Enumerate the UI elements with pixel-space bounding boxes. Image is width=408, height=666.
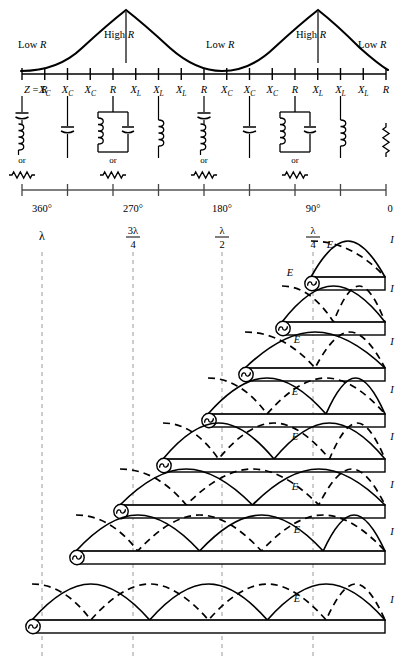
degree-label: 270° — [123, 203, 143, 214]
generator-icon — [26, 619, 40, 633]
wavelength-marker: λ4 — [306, 225, 320, 250]
inductor-icon — [341, 120, 346, 146]
resistor-icon — [282, 172, 308, 178]
or-label: or — [200, 155, 208, 165]
generator-icon — [276, 321, 290, 335]
impedance-tick-label: XL — [152, 84, 164, 98]
wavelength-markers: λ3λ4λ2λ4 — [39, 225, 320, 250]
impedance-label-high-r-2: High R — [296, 29, 327, 40]
inductor-icon — [159, 120, 164, 146]
impedance-label-low-r-right: Low R — [358, 39, 387, 50]
equivalent-circuit-parallel-LC-tank: or — [98, 96, 134, 178]
current-curve-label: I — [389, 336, 394, 347]
current-standing-wave-curve — [120, 469, 385, 505]
transmission-line-row: EI — [305, 234, 394, 291]
voltage-curve-label: E — [291, 481, 299, 492]
voltage-curve-label: E — [293, 524, 301, 535]
impedance-axis-tick-labels: Z = RXCXCXCRXLXLXLRXCXCXCRXLXLXLR — [24, 84, 390, 98]
degree-label: 360° — [32, 203, 52, 214]
capacitor-icon — [243, 127, 256, 133]
equivalent-circuit-capacitor — [243, 96, 256, 158]
voltage-standing-wave-curve — [120, 469, 385, 505]
equivalent-circuit-resistor-vertical — [383, 123, 389, 157]
or-label: or — [291, 155, 299, 165]
impedance-label-low-r-mid: Low R — [206, 39, 235, 50]
voltage-curve-label: E — [286, 267, 294, 278]
capacitor-icon — [16, 113, 29, 119]
transmission-line-row: EI — [70, 515, 394, 565]
equivalent-circuit-series-LC: or — [9, 96, 35, 178]
impedance-label-high-r-1: High R — [104, 29, 135, 40]
capacitor-icon — [61, 127, 74, 133]
impedance-tick-label: XC — [38, 84, 51, 98]
degree-label: 90° — [306, 203, 321, 214]
impedance-tick-label: XC — [84, 84, 97, 98]
resistor-icon — [383, 123, 389, 157]
equivalent-circuit-inductor — [341, 96, 346, 158]
resistor-icon — [191, 172, 217, 178]
capacitor-icon — [304, 127, 316, 133]
transmission-line-row: EI — [202, 378, 394, 428]
impedance-tick-label: R — [382, 84, 390, 95]
equivalent-circuit-parallel-LC-tank: or — [280, 96, 316, 178]
wavelength-numerator: λ — [219, 225, 225, 236]
or-label: or — [18, 155, 26, 165]
transmission-line-body — [208, 414, 385, 427]
wavelength-denominator: 2 — [219, 239, 224, 250]
current-curve-label: I — [389, 431, 394, 442]
current-curve-label: I — [389, 594, 394, 605]
transmission-line-body — [76, 551, 385, 564]
impedance-envelope-curve — [21, 10, 388, 71]
voltage-curve-label: E — [326, 239, 334, 250]
transmission-line-body — [32, 620, 385, 633]
resistor-icon — [9, 172, 35, 178]
impedance-tick-label: XL — [129, 84, 141, 98]
degree-label: 0 — [387, 203, 392, 214]
transmission-line-rows: EIEIEIEIEIEIEIEI — [26, 234, 394, 634]
figure-root: Low R High R Low R High R Low R Z = RXCX… — [0, 0, 408, 666]
or-label: or — [109, 155, 117, 165]
impedance-tick-label: XL — [334, 84, 346, 98]
degree-label: 180° — [212, 203, 232, 214]
current-curve-label: I — [389, 479, 394, 490]
generator-icon — [157, 458, 171, 472]
current-curve-label: I — [389, 526, 394, 537]
impedance-tick-label: XL — [175, 84, 187, 98]
current-standing-wave-curve — [76, 515, 385, 551]
transmission-line-standing-wave-figure: Low R High R Low R High R Low R Z = RXCX… — [0, 0, 408, 666]
transmission-line-row: EI — [114, 469, 394, 519]
generator-icon — [305, 276, 319, 290]
impedance-tick-label: XL — [357, 84, 369, 98]
transmission-line-row: EI — [26, 584, 394, 634]
impedance-axis: Z = RXCXCXCRXLXLXLRXCXCXCRXLXLXLR — [22, 68, 390, 98]
inductor-icon — [19, 124, 24, 150]
voltage-curve-label: E — [291, 431, 299, 442]
equivalent-circuit-inductor — [159, 96, 164, 158]
transmission-line-row: EI — [157, 423, 394, 473]
degree-axis: 360°270°180°90°0 — [22, 184, 393, 214]
current-curve-label: I — [389, 384, 394, 395]
equivalent-circuit-capacitor — [61, 96, 74, 158]
generator-icon — [70, 550, 84, 564]
impedance-curve-labels: Low R High R Low R High R Low R — [18, 29, 387, 50]
capacitor-icon — [198, 113, 211, 119]
equivalent-circuit-row: orororor — [9, 96, 389, 178]
wavelength-marker: λ2 — [215, 225, 229, 250]
transmission-line-body — [245, 368, 385, 381]
impedance-tick-label: R — [109, 84, 117, 95]
impedance-tick-label: R — [291, 84, 299, 95]
capacitor-icon — [122, 127, 134, 133]
current-curve-label: I — [389, 283, 394, 294]
inductor-icon — [201, 124, 206, 150]
impedance-tick-label: XC — [61, 84, 74, 98]
wavelength-marker: λ — [39, 229, 45, 243]
equivalent-circuit-series-LC: or — [191, 96, 217, 178]
wavelength-marker: 3λ4 — [126, 225, 140, 250]
voltage-curve-label: E — [291, 386, 299, 397]
inductor-icon — [280, 118, 285, 144]
transmission-line-row: EI — [239, 332, 394, 382]
impedance-tick-label: XC — [243, 84, 256, 98]
impedance-tick-label: R — [200, 84, 208, 95]
wavelength-numerator: 3λ — [128, 225, 139, 236]
inductor-icon — [98, 118, 103, 144]
